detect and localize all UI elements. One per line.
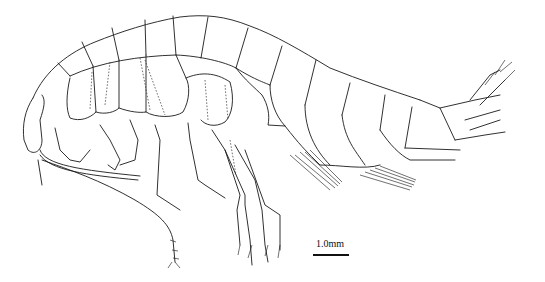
dorsal-outline: [33, 16, 420, 100]
head: [23, 95, 44, 152]
amphipod-drawing: [0, 0, 545, 282]
antenna-2: [42, 160, 175, 262]
scale-bar-label: 1.0mm: [316, 238, 344, 249]
figure-canvas: 1.0mm: [0, 0, 545, 282]
scale-bar: [313, 254, 349, 256]
